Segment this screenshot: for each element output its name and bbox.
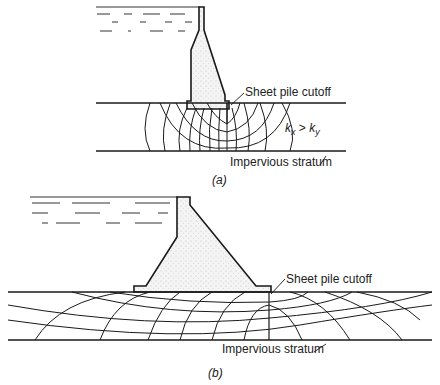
dam-b: [134, 197, 271, 292]
flow-lines-b: [8, 292, 432, 334]
equipotentials-a: [145, 103, 293, 151]
caption-b: (b): [208, 366, 223, 380]
anisotropy-label: kx > ky: [285, 121, 320, 137]
sheet-pile-label-b: Sheet pile cutoff: [286, 272, 373, 286]
flow-net-figure: Sheet pile cutoff Impervious stratum kx …: [0, 0, 440, 385]
sheet-pile-label-a: Sheet pile cutoff: [245, 85, 332, 99]
dam-a: [187, 7, 229, 109]
water-surface-b: [30, 197, 178, 223]
impervious-label-b: Impervious stratum: [222, 342, 324, 356]
caption-a: (a): [212, 173, 227, 187]
figure-a: Sheet pile cutoff Impervious stratum kx …: [96, 7, 346, 187]
figure-b: Sheet pile cutoff Impervious stratum (b): [8, 197, 432, 380]
impervious-label-a: Impervious stratum: [230, 155, 332, 169]
water-surface-a: [96, 7, 200, 31]
